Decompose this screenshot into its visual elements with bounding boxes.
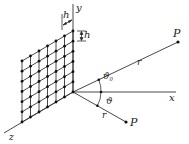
array-element-dot bbox=[63, 85, 66, 88]
array-element-dot bbox=[63, 75, 66, 78]
array-element-dot bbox=[29, 75, 32, 78]
array-diagram: y h h P r ϑ0 x ϑ r P z bbox=[0, 0, 189, 144]
array-element-dot bbox=[29, 65, 32, 68]
array-element-dot bbox=[46, 95, 49, 98]
array-element-dot bbox=[29, 116, 32, 119]
array-element-dot bbox=[72, 70, 75, 73]
array-element-dot bbox=[46, 75, 49, 78]
array-element-dot bbox=[21, 100, 24, 103]
array-element-dot bbox=[63, 96, 66, 99]
array-element-dot bbox=[72, 40, 75, 43]
array-element-dot bbox=[29, 85, 32, 88]
array-element-dot bbox=[63, 45, 66, 48]
array-element-dot bbox=[55, 80, 58, 83]
x-axis-label: x bbox=[169, 93, 175, 103]
point-p-lower-label: P bbox=[130, 117, 137, 128]
array-element-dot bbox=[29, 105, 32, 108]
z-axis-label: z bbox=[9, 133, 14, 142]
array-element-dot bbox=[72, 80, 75, 83]
array-element-dot bbox=[55, 60, 58, 63]
array-element-dot bbox=[38, 111, 41, 114]
array-element-dot bbox=[46, 106, 49, 109]
array-element-dot bbox=[38, 90, 41, 93]
distance-r-lower-label: r bbox=[102, 111, 106, 120]
array-element-dot bbox=[29, 95, 32, 98]
array-element-dot bbox=[29, 55, 32, 58]
array-element-dot bbox=[46, 45, 49, 48]
array-element-dot bbox=[63, 35, 66, 38]
array-element-dot bbox=[63, 65, 66, 68]
array-element-dot bbox=[55, 90, 58, 93]
array-element-dot bbox=[38, 100, 41, 103]
point-p-upper-dot bbox=[176, 40, 179, 43]
spacing-h-right-label: h bbox=[84, 30, 90, 40]
array-element-dot bbox=[46, 55, 49, 58]
array-element-dot bbox=[55, 50, 58, 53]
angle-theta0-label: ϑ0 bbox=[103, 72, 113, 82]
array-element-dot bbox=[21, 90, 24, 93]
diagram-svg bbox=[0, 0, 189, 144]
array-element-dot bbox=[72, 60, 75, 63]
ray-lower-p bbox=[73, 92, 126, 122]
array-element-dot bbox=[55, 101, 58, 104]
point-p-lower-dot bbox=[124, 120, 127, 123]
array-element-dot bbox=[38, 50, 41, 53]
angle-theta-label: ϑ bbox=[106, 97, 112, 106]
array-element-dot bbox=[38, 80, 41, 83]
y-axis-label: y bbox=[76, 3, 82, 13]
array-element-dot bbox=[63, 55, 66, 58]
array-element-dot bbox=[72, 30, 75, 33]
array-element-dot bbox=[21, 121, 24, 124]
array-element-dot bbox=[38, 70, 41, 73]
array-element-dot bbox=[21, 110, 24, 113]
array-element-dot bbox=[55, 70, 58, 73]
spacing-h-top-label: h bbox=[63, 10, 69, 20]
point-p-upper-label: P bbox=[173, 28, 180, 39]
array-element-dot bbox=[72, 91, 75, 94]
distance-r-upper-label: r bbox=[137, 58, 141, 67]
array-element-dot bbox=[21, 80, 24, 83]
array-element-dot bbox=[46, 85, 49, 88]
array-element-dot bbox=[46, 65, 49, 68]
array-element-dot bbox=[72, 50, 75, 53]
array-element-dot bbox=[21, 70, 24, 73]
element-dots bbox=[21, 30, 75, 124]
array-element-dot bbox=[55, 40, 58, 43]
array-element-dot bbox=[21, 60, 24, 63]
ray-upper-p bbox=[73, 42, 178, 92]
array-element-dot bbox=[38, 60, 41, 63]
